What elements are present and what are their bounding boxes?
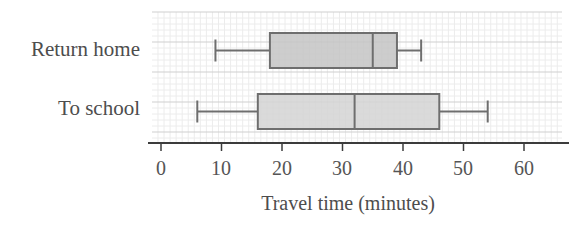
boxes	[197, 33, 487, 129]
tick-label-60: 60	[514, 157, 534, 179]
tick-label-10: 10	[211, 157, 231, 179]
iqr-box	[270, 33, 397, 68]
category-label-to-school: To school	[58, 96, 140, 120]
box-to-school	[197, 94, 487, 129]
tick-label-30: 30	[332, 157, 352, 179]
iqr-box	[258, 94, 440, 129]
box-plot-chart: Return home To school 0 10 20 30 40 50 6…	[0, 0, 574, 226]
x-axis-title: Travel time (minutes)	[261, 192, 435, 215]
tick-label-40: 40	[393, 157, 413, 179]
tick-label-0: 0	[156, 157, 166, 179]
category-label-return-home: Return home	[31, 37, 140, 61]
tick-label-50: 50	[453, 157, 473, 179]
box-return-home	[215, 33, 421, 68]
x-axis-ticks	[161, 143, 524, 151]
tick-label-20: 20	[272, 157, 292, 179]
